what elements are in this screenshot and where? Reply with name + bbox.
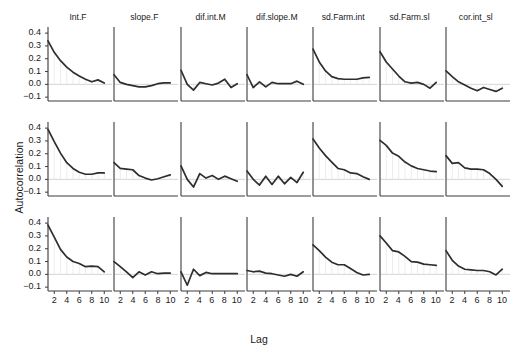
acf-panel-int-f-row2 [48, 123, 114, 204]
acf-panel-sd-farm-sl-row2 [380, 123, 446, 204]
acf-curve [313, 49, 369, 79]
acf-curve [48, 41, 104, 83]
acf-curve [48, 129, 104, 174]
acf-curve [313, 245, 369, 275]
y-tick-label: 0.1 [8, 66, 41, 76]
y-tick-label: 0.2 [8, 148, 41, 158]
acf-curve [380, 236, 436, 265]
acf-panel-dif-slope-m-row2 [247, 123, 313, 204]
acf-curve [114, 262, 170, 278]
y-tick-label: 0.0 [8, 78, 41, 88]
acf-panel-sd-farm-sl-row3 [380, 218, 446, 299]
acf-panel-sd-farm-int-row1 [313, 28, 379, 109]
acf-curve [181, 166, 237, 187]
acf-curve [313, 139, 369, 179]
acf-panel-cor-int-sl-row3 [446, 218, 512, 299]
y-tick-label: 0.4 [8, 217, 41, 227]
acf-panel-sd-farm-int-row2 [313, 123, 379, 204]
acf-panel-dif-int-m-row2 [181, 123, 247, 204]
acf-curve [446, 251, 502, 275]
x-axis-label: Lag [0, 333, 518, 345]
acf-curve [247, 171, 303, 185]
y-tick-label: 0.3 [8, 230, 41, 240]
acf-panel-figure: Autocorrelation Lag Int.Fslope.Fdif.int.… [0, 0, 518, 355]
y-tick-label: 0.0 [8, 268, 41, 278]
y-tick-label: 0.1 [8, 256, 41, 266]
acf-curve [380, 140, 436, 171]
y-tick-label: 0.0 [8, 173, 41, 183]
acf-panel-sd-farm-sl-row1 [380, 28, 446, 109]
y-tick-label: −0.1 [8, 281, 41, 291]
acf-curve [446, 71, 502, 91]
acf-panel-dif-int-m-row3 [181, 218, 247, 299]
acf-curve [114, 163, 170, 180]
acf-curve [181, 269, 237, 285]
y-tick-label: −0.1 [8, 186, 41, 196]
acf-curve [114, 75, 170, 87]
y-tick-label: 0.4 [8, 27, 41, 37]
acf-panel-cor-int-sl-row1 [446, 28, 512, 109]
acf-panel-slope-f-row1 [114, 28, 180, 109]
acf-panel-int-f-row3 [48, 218, 114, 299]
panel-title-cor-int-sl: cor.int_sl [432, 12, 518, 22]
y-tick-label: 0.3 [8, 40, 41, 50]
y-tick-label: 0.1 [8, 161, 41, 171]
acf-panel-sd-farm-int-row3 [313, 218, 379, 299]
y-tick-label: −0.1 [8, 91, 41, 101]
y-tick-label: 0.3 [8, 135, 41, 145]
acf-curve [247, 75, 303, 88]
acf-curve [48, 225, 104, 272]
acf-panel-slope-f-row3 [114, 218, 180, 299]
acf-panel-dif-int-m-row1 [181, 28, 247, 109]
y-tick-label: 0.2 [8, 243, 41, 253]
acf-curve [446, 156, 502, 187]
acf-panel-int-f-row1 [48, 28, 114, 109]
acf-panel-dif-slope-m-row1 [247, 28, 313, 109]
acf-curve [181, 70, 237, 90]
y-tick-label: 0.2 [8, 53, 41, 63]
acf-curve [380, 52, 436, 89]
acf-panel-cor-int-sl-row2 [446, 123, 512, 204]
acf-panel-dif-slope-m-row3 [247, 218, 313, 299]
acf-curve [247, 271, 303, 277]
y-tick-label: 0.4 [8, 122, 41, 132]
acf-panel-slope-f-row2 [114, 123, 180, 204]
